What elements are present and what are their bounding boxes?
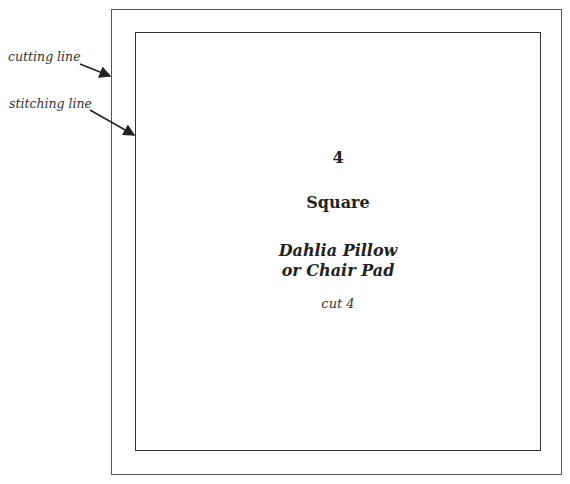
pattern-title-line1: Dahlia Pillow [135, 241, 541, 261]
cut-instruction: cut 4 [135, 296, 541, 311]
cutting-line-arrow-icon [80, 64, 110, 76]
pattern-shape: Square [135, 193, 541, 212]
pattern-number: 4 [135, 148, 541, 167]
pattern-title: Dahlia Pillow or Chair Pad [135, 241, 541, 281]
stitching-line-arrow-icon [90, 110, 134, 135]
pattern-title-line2: or Chair Pad [135, 261, 541, 281]
